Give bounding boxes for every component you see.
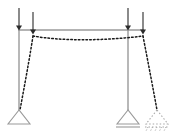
hatch-mark	[146, 127, 148, 131]
hatch-mark	[164, 127, 166, 131]
hatch-mark	[160, 127, 162, 131]
roller-support-right-displaced	[145, 110, 169, 127]
pin-support-left	[8, 110, 30, 124]
deflected-shape	[20, 36, 157, 110]
frame-diagram-canvas	[0, 0, 176, 132]
pin-support-left-triangle	[8, 110, 30, 124]
deflected-beam	[33, 36, 143, 40]
structural-frame-diagram	[0, 0, 176, 132]
load-arrows	[19, 8, 143, 30]
roller-support-right-triangle	[117, 110, 139, 124]
deflected-left-column	[20, 36, 33, 110]
hatch-mark	[155, 127, 157, 131]
displaced-support-hatching	[146, 127, 166, 131]
original-frame	[19, 30, 143, 110]
deflected-right-column	[143, 36, 157, 110]
roller-support-right	[116, 110, 140, 127]
displaced-support-triangle	[146, 110, 168, 124]
hatch-mark	[151, 127, 153, 131]
